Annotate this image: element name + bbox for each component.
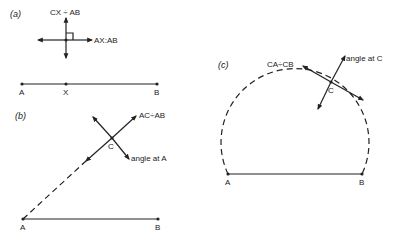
point-c-label: C [108, 142, 114, 151]
dashed-ray-ac [23, 161, 86, 219]
panel-c-label: (c) [218, 60, 229, 70]
panel-b: (b) C AC÷AB angle at A A B [15, 111, 167, 232]
horiz-ratio-label: AX:AB [94, 36, 118, 45]
point-a [226, 172, 229, 175]
point-b-label: B [359, 178, 364, 187]
ratio-arrow-icon [112, 116, 136, 138]
ratio-label: AC÷AB [139, 111, 165, 120]
geometry-figure: (a) CX ÷ AB AX:AB A X B (b) C AC÷AB angl… [0, 0, 400, 243]
point-a-label: A [225, 178, 231, 187]
nw-arrow-icon [93, 117, 112, 138]
point-c-label: C [328, 86, 334, 95]
point-b [155, 82, 158, 85]
point-x [64, 82, 67, 85]
point-b-label: B [154, 88, 159, 97]
point-a-label: A [19, 88, 25, 97]
perp-ratio-label: CX ÷ AB [50, 8, 80, 17]
point-b [360, 172, 363, 175]
tangent-nw-arrow-icon [303, 66, 331, 82]
point-c [329, 80, 332, 83]
point-a-label: A [20, 223, 26, 232]
point-a [20, 82, 23, 85]
ratio-label: CA÷CB [267, 60, 294, 69]
cross-center-point [64, 38, 67, 41]
angle-label: angle at A [131, 154, 167, 163]
point-b-label: B [155, 223, 160, 232]
tangent-se-arrow-icon [331, 82, 363, 100]
dashed-locus-arc [221, 69, 369, 174]
angle-arrow-icon [331, 56, 345, 82]
panel-a-label: (a) [10, 9, 21, 19]
angle-label: angle at C [346, 54, 383, 63]
panel-a: (a) CX ÷ AB AX:AB A X B [10, 8, 159, 97]
panel-b-label: (b) [15, 111, 26, 121]
point-b [156, 217, 159, 220]
angle-arrow-icon [112, 138, 129, 159]
panel-c: (c) C CA÷CB angle at C A B [218, 54, 383, 187]
point-x-label: X [63, 88, 69, 97]
point-c [110, 136, 113, 139]
point-a [21, 217, 24, 220]
figure-canvas: (a) CX ÷ AB AX:AB A X B (b) C AC÷AB angl… [0, 0, 400, 243]
